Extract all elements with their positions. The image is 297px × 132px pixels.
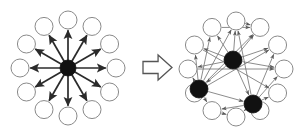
node-hollow — [203, 18, 221, 36]
node-hollow — [107, 59, 125, 77]
edge — [208, 92, 243, 102]
node-hollow — [35, 101, 53, 119]
node-hollow — [83, 17, 101, 35]
edge — [245, 23, 250, 24]
edge — [193, 78, 195, 81]
node-hollow — [59, 107, 77, 125]
node-hollow — [59, 11, 77, 29]
node-hollow — [17, 35, 35, 53]
transform-arrow — [143, 55, 172, 80]
transform-arrow-icon — [143, 55, 172, 80]
node-hollow — [83, 101, 101, 119]
edge — [198, 62, 224, 67]
hub-node-circle — [60, 60, 76, 76]
node-hollow — [101, 35, 119, 53]
node-hollow — [251, 18, 269, 36]
node-hollow — [269, 36, 287, 54]
panel-star-topology — [11, 11, 125, 125]
figure-canvas — [0, 0, 297, 132]
node-hollow — [227, 108, 245, 126]
node-hollow — [179, 60, 197, 78]
node-hollow — [269, 84, 287, 102]
node-hollow — [101, 83, 119, 101]
hub-node — [60, 60, 76, 76]
edge — [204, 97, 207, 102]
node-hollow — [17, 83, 35, 101]
edge — [262, 97, 269, 100]
edge — [239, 35, 254, 53]
node-solid — [190, 80, 208, 98]
node-hollow — [227, 12, 245, 30]
diagram-svg — [0, 0, 297, 132]
node-hollow — [35, 17, 53, 35]
node-hollow — [203, 102, 221, 120]
node-hollow — [185, 36, 203, 54]
panel-distributed-topology — [179, 12, 293, 126]
node-solid — [224, 51, 242, 69]
edge — [244, 110, 246, 111]
node-hollow — [275, 60, 293, 78]
node-solid — [244, 95, 262, 113]
node-hollow — [11, 59, 29, 77]
edge — [234, 31, 236, 51]
edge — [221, 113, 226, 114]
